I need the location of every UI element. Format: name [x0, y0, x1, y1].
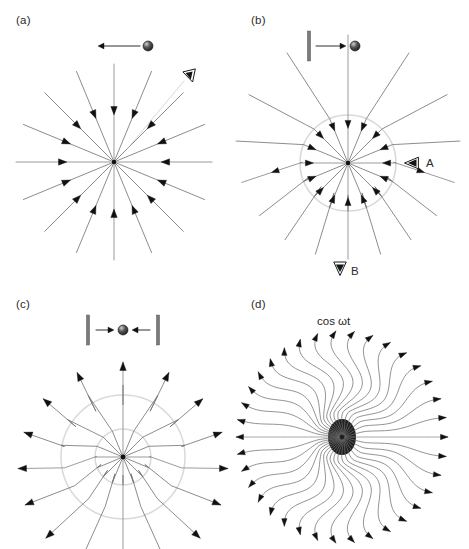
wave-arrow-head: [439, 415, 447, 420]
double-kinked-field-line: [123, 457, 200, 538]
observer-eye-icon: [183, 69, 195, 82]
charge-body: [143, 41, 153, 51]
wave-arrow-head: [282, 519, 287, 527]
kinked-field-line: [348, 163, 411, 240]
wave-field-line: [315, 334, 344, 434]
field-arrow: [90, 205, 96, 214]
wave-arrow-head: [439, 453, 447, 458]
field-arrow: [61, 138, 70, 144]
wave-field-line: [345, 438, 441, 475]
field-arrow: [58, 159, 67, 165]
kinked-field-line: [348, 163, 437, 216]
wave-arrow-head: [237, 450, 245, 455]
panel-c-diagram: [0, 285, 235, 549]
panel-d: (d) cos ωt: [235, 285, 469, 549]
double-kinked-field-line: [123, 373, 169, 457]
wave-arrow-head: [413, 365, 421, 370]
field-arrow-outer: [272, 167, 280, 172]
wave-arrow-head: [282, 348, 287, 356]
field-arrow: [77, 373, 84, 382]
field-arrow: [24, 432, 33, 438]
observer-b-label: B: [351, 265, 359, 277]
double-kinked-field-line: [43, 399, 123, 457]
field-arrow: [329, 195, 335, 204]
field-center-dot: [112, 160, 116, 164]
field-arrow: [345, 198, 351, 206]
wave-arrow-head: [269, 359, 274, 367]
moving-charge: [143, 41, 153, 51]
field-arrow: [329, 123, 335, 132]
field-arrow: [61, 180, 70, 186]
wave-arrow-head: [242, 465, 250, 471]
oscillating-charge: [118, 325, 128, 335]
field-arrow: [132, 205, 138, 214]
wave-arrow-head: [347, 332, 354, 339]
wave-field-line: [315, 440, 344, 540]
field-arrow: [25, 499, 34, 505]
wave-arrow-head: [441, 434, 449, 439]
field-arrow: [345, 120, 351, 128]
field-arrow: [162, 373, 169, 382]
osc-arrow-right-head: [132, 327, 138, 333]
observer-a-icon: [405, 157, 419, 169]
panel-d-diagram: [235, 285, 469, 549]
field-arrow: [308, 176, 317, 182]
wave-arrow-head: [399, 516, 407, 521]
osc-arrow-left-head: [108, 327, 114, 333]
field-arrow: [212, 499, 221, 505]
field-arrow: [361, 123, 367, 132]
field-arrow: [308, 144, 317, 150]
field-arrow: [361, 195, 367, 204]
wave-field-line: [345, 399, 441, 436]
panel-a: (a): [0, 0, 235, 285]
double-kinked-field-line: [123, 456, 228, 468]
field-arrow: [120, 362, 126, 371]
wave-arrow-head: [329, 331, 335, 339]
physics-field-line-figure: (a) (b) AB (c) (d) cos ωt: [0, 0, 469, 549]
charge-motion-arrow-head: [340, 43, 346, 49]
wall-bar: [307, 31, 310, 61]
wave-arrow-head: [237, 419, 245, 424]
field-center-dot: [346, 161, 350, 165]
panel-a-diagram: [0, 0, 235, 285]
field-arrow: [380, 176, 389, 182]
double-kinked-field-line: [77, 373, 123, 457]
field-arrow: [90, 109, 96, 118]
kinked-field-line: [236, 141, 348, 163]
charge-body: [350, 41, 360, 51]
wave-field-line: [342, 335, 373, 434]
wall-left: [86, 315, 89, 345]
double-kinked-field-line: [80, 457, 123, 549]
kinked-field-line: [348, 53, 409, 163]
wave-arrow-head: [296, 527, 301, 535]
field-arrow: [18, 465, 27, 471]
double-kinked-field-line: [123, 432, 222, 457]
wave-arrow-head: [258, 372, 264, 380]
wave-field-line: [345, 418, 446, 437]
field-arrow: [111, 106, 117, 115]
panel-b-diagram: AB: [235, 0, 469, 285]
panel-b: (b) AB: [235, 0, 469, 285]
kinked-field-line: [285, 163, 348, 240]
wall-right: [156, 315, 159, 345]
wave-arrow-head: [269, 507, 274, 515]
wave-field-line: [345, 438, 446, 457]
field-arrow: [380, 144, 389, 150]
kinked-field-line: [287, 53, 348, 163]
field-arrow: [132, 109, 138, 118]
field-arrow: [305, 160, 313, 166]
field-arrow: [157, 180, 166, 186]
wave-arrow-head: [312, 532, 318, 540]
wave-arrow-head: [424, 489, 432, 494]
kinked-field-line: [259, 163, 348, 216]
field-arrow: [383, 160, 391, 166]
field-arrow: [157, 138, 166, 144]
field-center-dot: [121, 455, 126, 460]
field-arrow: [161, 159, 170, 165]
wave-arrow-head: [296, 339, 301, 347]
kinked-field-line: [348, 141, 460, 163]
wave-arrow-head: [258, 494, 264, 502]
field-arrow: [213, 432, 222, 438]
wave-arrow-head: [312, 334, 318, 342]
wave-arrow-head: [413, 503, 421, 508]
